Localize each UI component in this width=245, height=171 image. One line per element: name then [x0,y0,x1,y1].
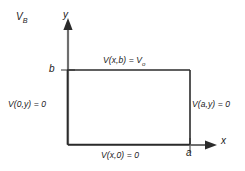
figure-tag-vb-subscript: B [23,16,28,25]
boundary-condition-top: V(x,b) = Vo [103,56,146,67]
y-tick-label-b: b [49,64,55,74]
x-axis-label: x [221,136,226,146]
potential-boundary-value-diagram: VB y x b a V(x,b) = Vo V(0,y) = 0 V(a,y)… [0,0,245,171]
figure-tag-vb-text: V [16,11,23,22]
x-axis-arrowhead [205,140,217,149]
boundary-condition-bottom: V(x,0) = 0 [101,151,139,160]
boundary-condition-right: V(a,y) = 0 [192,100,230,109]
x-tick-label-a: a [186,148,192,158]
diagram-canvas [0,0,245,171]
boundary-condition-left: V(0,y) = 0 [8,100,46,109]
figure-tag-vb: VB [16,12,27,24]
boundary-condition-top-text: V(x,b) = V [103,55,142,65]
boundary-condition-top-subscript: o [142,60,146,67]
y-axis-label: y [63,10,68,20]
